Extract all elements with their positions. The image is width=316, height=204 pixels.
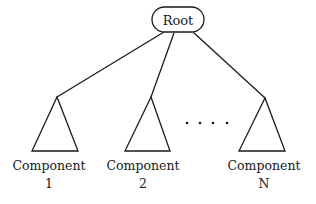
component-n: Component N (228, 98, 301, 191)
edge-root-to-component-2 (151, 33, 174, 97)
subtree-triangle-icon (32, 97, 78, 151)
tree-diagram: Root Component 1 Component 2 Component N (0, 0, 316, 204)
component-2-index: 2 (139, 176, 147, 191)
component-2: Component 2 (107, 97, 180, 191)
edges (57, 32, 265, 98)
subtree-triangle-icon (125, 97, 170, 151)
edge-root-to-component-n (193, 32, 265, 98)
component-1-label: Component (13, 158, 86, 173)
component-1-index: 1 (45, 176, 53, 191)
component-n-index: N (259, 176, 270, 191)
edge-root-to-component-1 (57, 32, 164, 97)
subtree-triangle-icon (239, 98, 285, 151)
component-2-label: Component (107, 158, 180, 173)
ellipsis-dots (186, 122, 229, 125)
root-node: Root (152, 7, 204, 32)
component-1: Component 1 (13, 97, 86, 191)
component-n-label: Component (228, 158, 301, 173)
root-label: Root (163, 13, 194, 28)
